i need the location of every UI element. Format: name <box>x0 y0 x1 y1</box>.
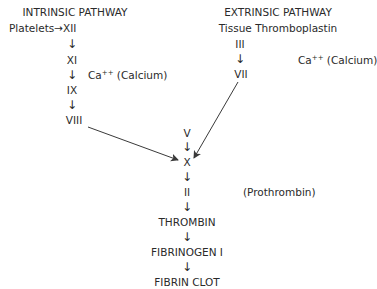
down-arrow-icon: ↓ <box>67 99 77 111</box>
extrinsic-to-x-arrow <box>194 82 238 158</box>
down-arrow-icon: ↓ <box>182 141 192 153</box>
factor-iii: III <box>235 38 244 50</box>
calcium-charge: ++ <box>102 69 114 77</box>
down-arrow-icon: ↓ <box>67 69 77 81</box>
calcium-name: (Calcium) <box>327 54 377 66</box>
down-arrow-icon: ↓ <box>67 38 77 50</box>
calcium-charge: ++ <box>312 54 324 62</box>
factor-x: X <box>183 156 190 168</box>
platelets-label: Platelets→XII <box>9 22 76 34</box>
intrinsic-heading: INTRINSIC PATHWAY <box>23 6 128 18</box>
factor-xii: XII <box>63 22 76 34</box>
down-arrow-icon: ↓ <box>182 171 192 183</box>
factor-ix: IX <box>67 84 77 96</box>
prothrombin-note: (Prothrombin) <box>243 186 316 198</box>
intrinsic-to-x-arrow <box>88 127 178 160</box>
factor-vii: VII <box>234 68 247 80</box>
calcium-name: (Calcium) <box>117 69 167 81</box>
down-arrow-icon: ↓ <box>235 53 245 65</box>
calcium-symbol: Ca <box>298 54 312 66</box>
down-arrow-icon: ↓ <box>182 261 192 273</box>
extrinsic-calcium-label: Ca++ (Calcium) <box>298 54 377 66</box>
fibrin-clot-label: FIBRIN CLOT <box>154 276 219 288</box>
tissue-thromboplastin-label: Tissue Thromboplastin <box>219 22 337 34</box>
right-arrow-icon: → <box>54 22 63 34</box>
factor-viii: VIII <box>66 114 82 126</box>
calcium-symbol: Ca <box>88 69 102 81</box>
intrinsic-calcium-label: Ca++ (Calcium) <box>88 69 167 81</box>
extrinsic-heading: EXTRINSIC PATHWAY <box>224 6 332 18</box>
fibrinogen-label: FIBRINOGEN I <box>151 246 223 258</box>
factor-ii: II <box>184 186 190 198</box>
factor-v: V <box>183 127 190 139</box>
platelets-text: Platelets <box>9 22 54 34</box>
down-arrow-icon: ↓ <box>182 201 192 213</box>
factor-xi: XI <box>67 54 77 66</box>
down-arrow-icon: ↓ <box>182 231 192 243</box>
thrombin-label: THROMBIN <box>158 216 215 228</box>
